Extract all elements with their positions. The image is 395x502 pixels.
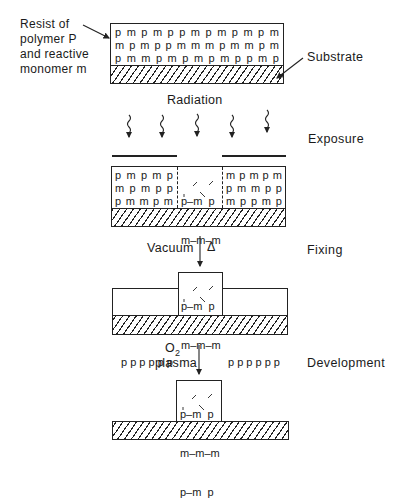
heat-symbol: Δ — [207, 240, 216, 255]
resist-label-line-4: monomer m — [20, 62, 89, 77]
exposure-label: Exposure — [308, 132, 364, 146]
exposed-left-grid: pmpmp mpmpp pmmpm — [115, 169, 173, 208]
fixed-right-polymer: p p p p p p p p p p p p — [228, 291, 280, 382]
initial-row-1: pmpmppmpmpmpm — [115, 26, 279, 39]
radiation-label: Radiation — [167, 93, 223, 108]
exposed-boundary-right — [222, 167, 223, 208]
mask-left — [112, 155, 177, 157]
resist-label-line-3: and reactive — [20, 47, 89, 62]
developed-substrate — [112, 421, 289, 440]
resist-label: Resist of polymer P and reactive monomer… — [20, 17, 89, 77]
vacuum-label: Vacuum — [147, 241, 194, 256]
fixing-label: Fixing — [307, 243, 343, 257]
mask-right — [222, 155, 286, 157]
exposed-right-grid: mpmpm pmmpp mppmp — [226, 169, 282, 208]
developed-center-crosslinked: p–m p m–m–m p–m p — [180, 382, 220, 502]
plasma-label: plasma — [155, 356, 197, 371]
fixed-substrate — [112, 315, 288, 335]
exposed-boundary-left — [177, 167, 178, 208]
substrate-label: Substrate — [307, 50, 363, 65]
initial-row-2: mpmppmmmpmmpm — [115, 39, 279, 52]
initial-substrate — [110, 65, 284, 84]
initial-resist-grid: pmpmppmpmpmpm mpmppmmmpmmpm pmmpmpmpmppm… — [115, 26, 279, 65]
development-label: Development — [307, 356, 385, 370]
resist-label-line-2: polymer P — [20, 32, 89, 47]
exposed-substrate — [111, 208, 286, 227]
initial-row-3: pmmpmpmpmppmp — [115, 52, 279, 65]
resist-label-line-1: Resist of — [20, 17, 89, 32]
radiation-arrows — [128, 110, 269, 137]
